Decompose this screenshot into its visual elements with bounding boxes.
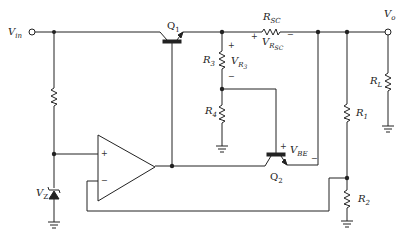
- q1-transistor-icon: [160, 32, 183, 166]
- opamp-minus-sign: −: [101, 177, 108, 185]
- r3-resistor-icon: [219, 32, 225, 105]
- vrsc-minus-sign: −: [287, 31, 294, 39]
- rsc-label: RSC: [263, 12, 281, 25]
- vbe-minus-sign: −: [311, 155, 318, 163]
- vr3-label: VR3: [231, 56, 247, 70]
- r4-resistor-icon: [219, 105, 225, 146]
- q2-base-wire: [222, 89, 276, 154]
- vin-terminal-icon: [29, 29, 35, 35]
- vo-terminal-icon: [385, 29, 391, 35]
- r3-label: R3: [203, 55, 215, 68]
- rl-resistor-icon: [385, 35, 391, 126]
- ground-icon: [216, 146, 228, 152]
- vrsc-label: VRSC: [262, 37, 283, 51]
- ground-icon: [382, 126, 394, 132]
- r1-label: R1: [356, 108, 368, 121]
- bias-resistor-icon: [51, 32, 57, 188]
- zener-diode-icon: [48, 187, 60, 222]
- vbe-label: VBE: [290, 145, 308, 158]
- r2-resistor-icon: [344, 190, 350, 221]
- rl-label: RL: [370, 76, 382, 89]
- q2-label: Q2: [270, 172, 283, 185]
- vrsc-plus-sign: +: [251, 33, 258, 41]
- ground-icon: [48, 222, 60, 228]
- vin-label: Vin: [8, 27, 22, 40]
- op-amp-icon: [98, 135, 155, 201]
- r2-label: R2: [358, 194, 370, 207]
- vr3-minus-sign: −: [228, 73, 235, 81]
- vr3-plus-sign: +: [228, 42, 235, 50]
- rsc-resistor-icon: [262, 29, 280, 35]
- r4-label: R4: [205, 106, 217, 119]
- ground-icon: [341, 221, 353, 227]
- q1-label: Q1: [167, 21, 180, 34]
- vbe-plus-sign: +: [280, 143, 287, 151]
- r1-resistor-icon: [344, 32, 350, 190]
- vo-label: Vo: [384, 9, 395, 22]
- opamp-plus-sign: +: [101, 150, 108, 158]
- vz-label: VZ: [36, 188, 48, 201]
- circuit-schematic: [0, 0, 407, 242]
